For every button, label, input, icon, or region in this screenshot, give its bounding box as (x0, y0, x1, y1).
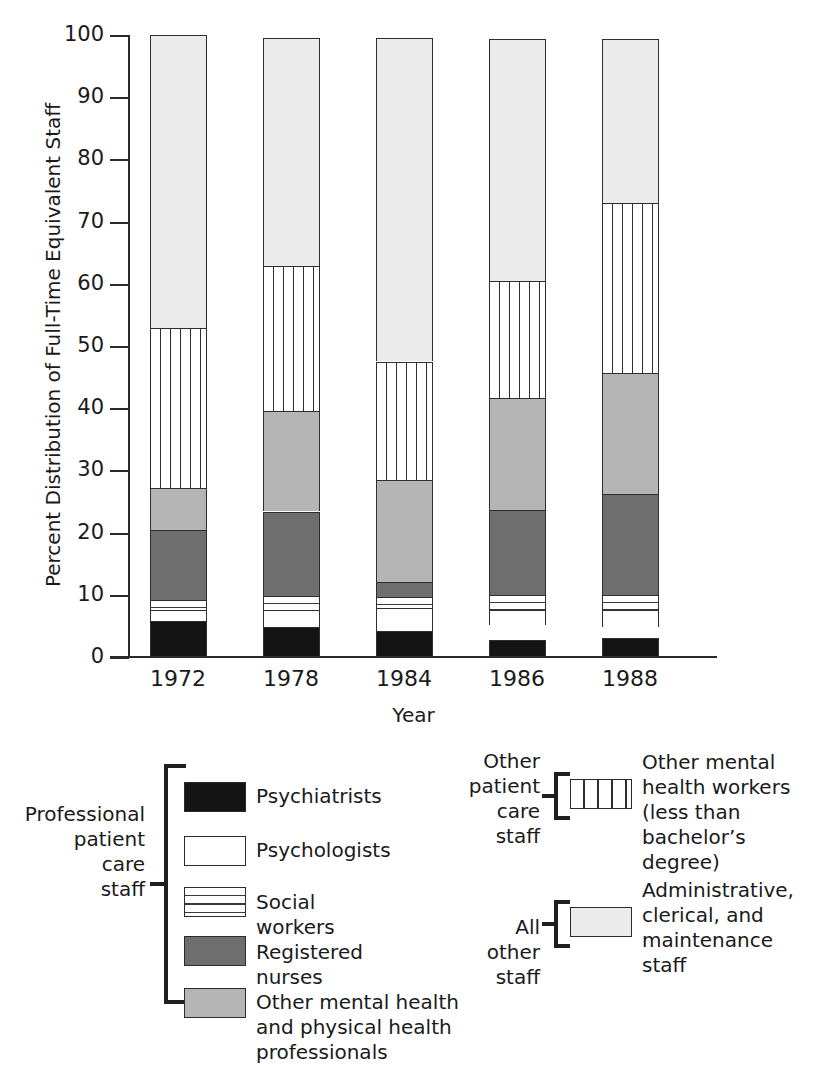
segment-1984-psychiatrists (376, 631, 433, 657)
legend-group-label-line-3: care (10, 852, 145, 877)
legend-label-psychiatrists: Psychiatrists (256, 784, 382, 809)
segment-1986-other-mh-workers (489, 281, 546, 398)
segment-1972-psychologists (150, 610, 207, 621)
legend-label-psychologists: Psychologists (256, 838, 391, 863)
legend-swatch-other-mh-workers[interactable] (570, 779, 632, 809)
legend-group-label-other-patient: Other patient care staff (430, 749, 540, 849)
legend-group-label-op-line-3: care (430, 799, 540, 824)
legend-group-label-line-4: staff (10, 877, 145, 902)
y-axis-title: Percent Distribution of Full-Time Equiva… (42, 65, 64, 625)
legend-brace-professional (164, 764, 186, 1004)
legend-swatch-other-mh-ph[interactable] (184, 988, 246, 1018)
segment-1988-psychiatrists (602, 638, 659, 657)
segment-1972-other-mh-workers (150, 328, 207, 489)
legend-group-label-ao-line-1: All (430, 915, 540, 940)
legend-swatch-registered-nurses[interactable] (184, 936, 246, 966)
x-tick-label-1972: 1972 (123, 666, 233, 692)
legend-label-registered-nurses: Registered nurses (256, 940, 363, 990)
legend-group-label-op-line-1: Other (430, 749, 540, 774)
segment-1972-social-workers (150, 600, 207, 610)
segment-1984-psychologists (376, 608, 433, 631)
legend-label-other-mh-ph: Other mental health and physical health … (256, 990, 486, 1065)
legend-group-label-all-other: All other staff (430, 915, 540, 990)
legend-group-label-ao-line-2: other (430, 940, 540, 965)
y-tick-60 (110, 284, 129, 286)
segment-1972-psychiatrists (150, 621, 207, 657)
segment-1988-admin (602, 39, 659, 203)
segment-1972-registered-nurses (150, 530, 207, 600)
legend-label-admin-line-2: clerical, and (642, 903, 829, 928)
segment-1978-psychiatrists (263, 627, 320, 657)
legend-label-other-mh-workers: Other mental health workers (less than b… (642, 750, 829, 875)
legend-swatch-social-workers[interactable] (184, 887, 246, 917)
legend-label-admin-line-4: staff (642, 953, 829, 978)
y-tick-label-100: 100 (52, 24, 104, 45)
segment-1984-admin (376, 38, 433, 361)
legend-label-other-mh-ph-line-1: Other mental health (256, 990, 486, 1015)
y-tick-20 (110, 533, 129, 535)
segment-1986-social-workers (489, 595, 546, 610)
legend-group-label-op-line-2: patient (430, 774, 540, 799)
legend-brace-all-other (554, 900, 570, 948)
segment-1988-registered-nurses (602, 494, 659, 595)
y-tick-70 (110, 222, 129, 224)
legend-swatch-psychiatrists[interactable] (184, 782, 246, 812)
segment-1972-other-mh-ph (150, 488, 207, 530)
legend-group-label-ao-line-3: staff (430, 965, 540, 990)
y-tick-100 (110, 35, 129, 37)
segment-1978-other-mh-workers (263, 266, 320, 411)
segment-1988-psychologists (602, 610, 659, 627)
y-tick-80 (110, 159, 129, 161)
plot-area: 100 90 80 70 60 50 40 30 (0, 0, 829, 740)
legend-group-label-line-1: Professional (10, 802, 145, 827)
legend-label-admin: Administrative, clerical, and maintenanc… (642, 878, 829, 978)
segment-1986-other-mh-ph (489, 398, 546, 510)
segment-1986-psychiatrists (489, 640, 546, 657)
legend-swatch-admin[interactable] (570, 907, 632, 937)
legend: Professional patient care staff Psychiat… (0, 740, 829, 1058)
legend-brace-stub-other-patient (542, 794, 556, 798)
x-tick-label-1988: 1988 (575, 666, 685, 692)
legend-brace-stub-all-other (542, 922, 556, 926)
segment-1986-psychologists (489, 610, 546, 625)
segment-1978-admin (263, 38, 320, 267)
segment-1984-other-mh-ph (376, 480, 433, 582)
legend-label-omhw-line-1: Other mental (642, 750, 829, 775)
segment-1978-other-mh-ph (263, 411, 320, 511)
y-tick-0 (110, 657, 129, 659)
x-tick-label-1984: 1984 (349, 666, 459, 692)
segment-1978-registered-nurses (263, 512, 320, 597)
legend-label-other-mh-ph-line-3: professionals (256, 1040, 486, 1065)
legend-group-label-professional: Professional patient care staff (10, 802, 145, 902)
y-tick-label-0-wrap: 0 (46, 646, 104, 667)
segment-1988-social-workers (602, 595, 659, 610)
legend-brace-stub-professional (150, 882, 166, 886)
legend-label-admin-line-1: Administrative, (642, 878, 829, 903)
legend-swatch-psychologists[interactable] (184, 836, 246, 866)
y-tick-40 (110, 408, 129, 410)
segment-1984-registered-nurses (376, 582, 433, 596)
segment-1972-admin (150, 35, 207, 328)
segment-1978-social-workers (263, 596, 320, 610)
legend-label-social-workers: Social workers (256, 890, 335, 940)
y-tick-30 (110, 470, 129, 472)
legend-label-omhw-line-3: (less than bachelor’s (642, 800, 829, 850)
legend-label-omhw-line-4: degree) (642, 850, 829, 875)
y-tick-label-0: 0 (52, 646, 104, 667)
x-axis-title: Year (110, 704, 717, 726)
segment-1984-other-mh-workers (376, 362, 433, 481)
segment-1986-admin (489, 39, 546, 282)
legend-group-label-op-line-4: staff (430, 824, 540, 849)
y-tick-50 (110, 346, 129, 348)
x-tick-label-1986: 1986 (462, 666, 572, 692)
legend-label-other-mh-ph-line-2: and physical health (256, 1015, 486, 1040)
y-tick-10 (110, 595, 129, 597)
legend-brace-other-patient (554, 772, 570, 820)
segment-1988-other-mh-ph (602, 373, 659, 494)
x-tick-label-1978: 1978 (236, 666, 346, 692)
segment-1988-other-mh-workers (602, 203, 659, 373)
legend-label-admin-line-3: maintenance (642, 928, 829, 953)
legend-label-omhw-line-2: health workers (642, 775, 829, 800)
legend-group-label-line-2: patient (10, 827, 145, 852)
